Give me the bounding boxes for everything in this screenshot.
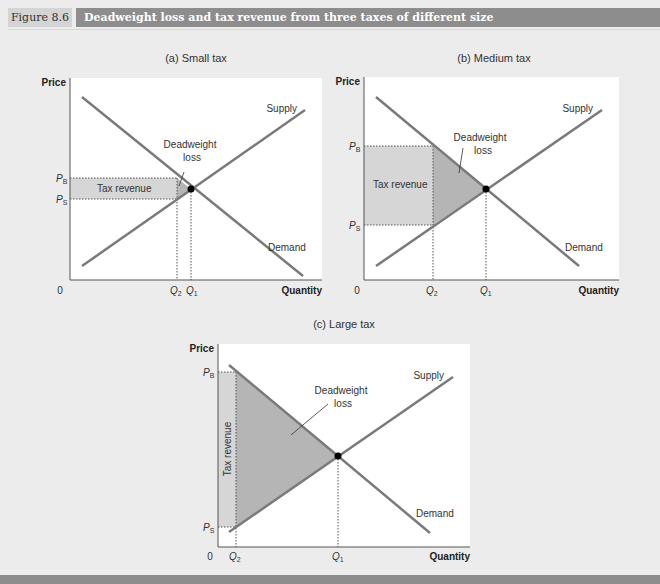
demand-label: Demand	[565, 242, 603, 253]
panel-title: (c) Large tax	[313, 318, 375, 330]
q2-label: Q2	[426, 285, 438, 297]
panel-title: (b) Medium tax	[457, 52, 531, 64]
deadweight-loss-label: loss	[334, 398, 352, 409]
supply-label: Supply	[413, 370, 444, 381]
equilibrium-point	[483, 186, 490, 193]
origin-label: 0	[207, 551, 213, 562]
equilibrium-point	[188, 186, 195, 193]
pb-label: PB	[203, 367, 215, 379]
deadweight-loss-label: loss	[183, 152, 201, 163]
pb-label: PB	[349, 141, 361, 153]
price-axis-label: Price	[42, 77, 67, 88]
price-axis-label: Price	[190, 343, 215, 354]
supply-label: Supply	[562, 103, 593, 114]
panel-large-tax: (c) Large tax Price Quantity 0 Supply De…	[190, 318, 471, 563]
ps-label: PS	[56, 194, 68, 206]
origin-label: 0	[354, 285, 360, 296]
demand-label: Demand	[268, 242, 306, 253]
supply-label: Supply	[266, 103, 297, 114]
price-axis-label: Price	[336, 76, 361, 87]
panel-small-tax: (a) Small tax Price Quantity 0 Supply De…	[42, 52, 323, 297]
q1-label: Q1	[186, 285, 198, 297]
q2-label: Q2	[170, 285, 182, 297]
quantity-axis-label: Quantity	[281, 285, 322, 296]
ps-label: PS	[349, 220, 361, 232]
panel-title: (a) Small tax	[165, 52, 227, 64]
ps-label: PS	[203, 522, 215, 534]
footer-bar	[0, 575, 660, 584]
q2-label: Q2	[229, 551, 241, 563]
q1-label: Q1	[332, 551, 344, 563]
origin-label: 0	[57, 285, 63, 296]
tax-revenue-label: Tax revenue	[97, 183, 152, 194]
quantity-axis-label: Quantity	[429, 551, 470, 562]
tax-diagrams: (a) Small tax Price Quantity 0 Supply De…	[0, 0, 660, 584]
panel-medium-tax: (b) Medium tax Price Quantity 0 Supply D…	[336, 52, 620, 297]
tax-revenue-label: Tax revenue	[373, 179, 428, 190]
deadweight-loss-label: Deadweight	[164, 139, 217, 150]
pb-label: PB	[56, 173, 68, 185]
equilibrium-point	[335, 453, 342, 460]
deadweight-loss-label: Deadweight	[454, 132, 507, 143]
demand-label: Demand	[416, 508, 454, 519]
quantity-axis-label: Quantity	[578, 285, 619, 296]
deadweight-loss-label: loss	[474, 145, 492, 156]
tax-revenue-label: Tax revenue	[222, 421, 233, 476]
deadweight-loss-label: Deadweight	[315, 385, 368, 396]
q1-label: Q1	[480, 285, 492, 297]
